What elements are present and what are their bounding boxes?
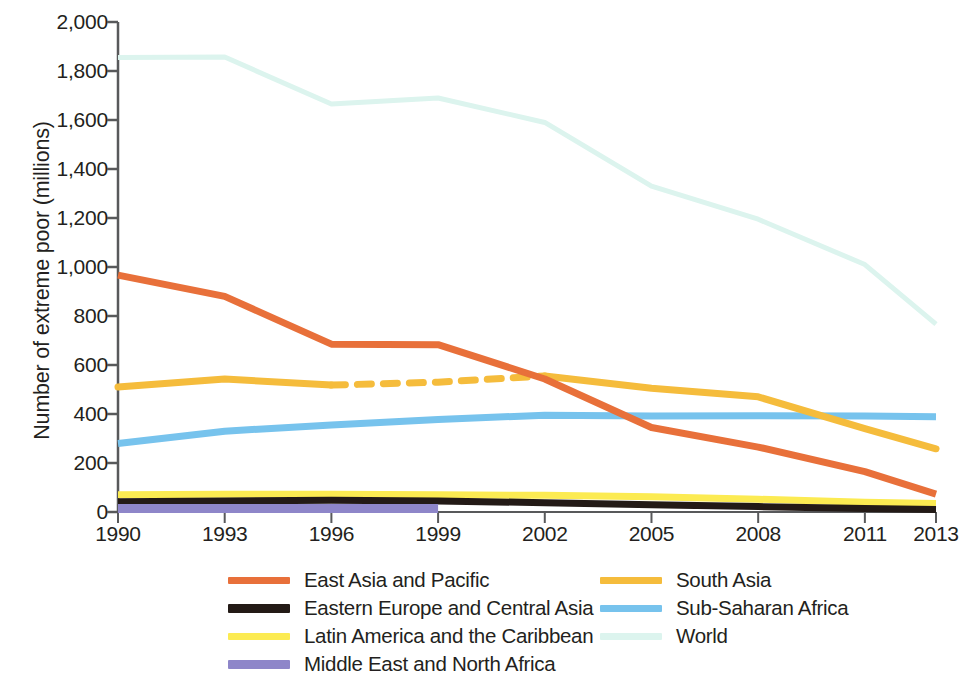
legend-item[interactable]: Sub-Saharan Africa	[600, 594, 928, 622]
legend-color-swatch	[228, 604, 290, 613]
legend-item-label: South Asia	[676, 568, 771, 592]
series-line	[118, 379, 331, 387]
series-line	[118, 415, 936, 443]
legend-color-swatch	[600, 577, 662, 584]
legend-item-label: Sub-Saharan Africa	[676, 596, 848, 620]
legend-item[interactable]: South Asia	[600, 566, 928, 594]
legend-item[interactable]: Middle East and North Africa	[228, 650, 600, 678]
legend-color-swatch	[228, 660, 290, 669]
series-line	[118, 275, 936, 494]
legend-item[interactable]: Eastern Europe and Central Asia	[228, 594, 600, 622]
legend-item-label: Eastern Europe and Central Asia	[304, 596, 593, 620]
legend-item[interactable]: World	[600, 622, 928, 650]
legend-color-swatch	[228, 633, 290, 640]
legend-item-label: World	[676, 624, 728, 648]
legend-item[interactable]: Latin America and the Caribbean	[228, 622, 600, 650]
series-line	[118, 57, 936, 324]
legend-color-swatch	[600, 605, 662, 612]
legend-color-swatch	[600, 633, 662, 640]
legend-item-label: Middle East and North Africa	[304, 652, 555, 676]
series-line-dashed	[331, 376, 544, 385]
legend-item-label: East Asia and Pacific	[304, 568, 489, 592]
legend-item-label: Latin America and the Caribbean	[304, 624, 593, 648]
legend-color-swatch	[228, 577, 290, 584]
chart-legend: East Asia and PacificSouth AsiaEastern E…	[228, 566, 928, 678]
legend-item[interactable]: East Asia and Pacific	[228, 566, 600, 594]
